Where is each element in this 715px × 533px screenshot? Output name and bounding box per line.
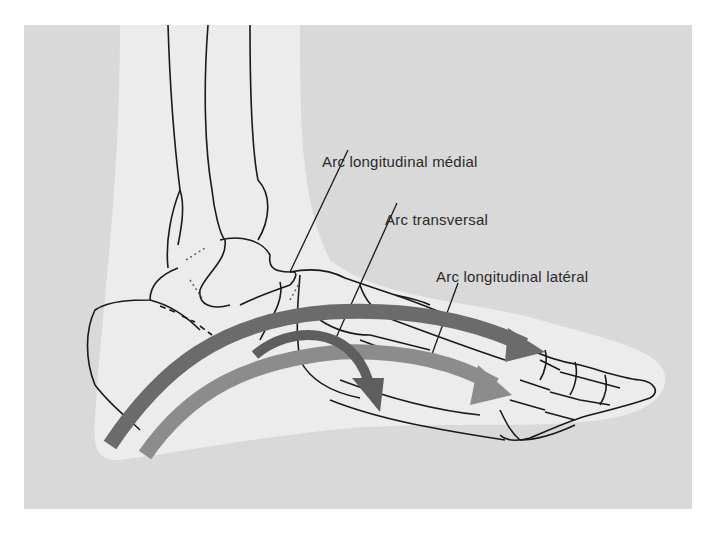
foot-diagram	[24, 25, 692, 509]
label-medial-longitudinal-arch: Arc longitudinal médial	[322, 153, 478, 170]
label-transverse-arch: Arc transversal	[385, 211, 488, 228]
label-lateral-longitudinal-arch: Arc longitudinal latéral	[436, 268, 588, 285]
diagram-panel: Arc longitudinal médial Arc transversal …	[24, 25, 692, 509]
